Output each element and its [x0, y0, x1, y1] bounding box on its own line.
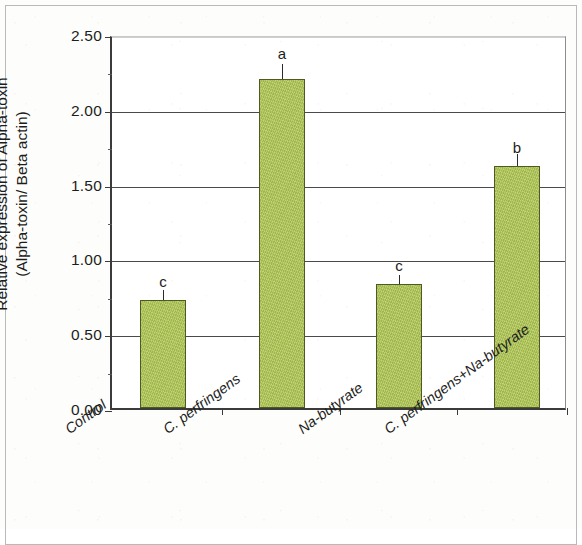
y-axis-tick-minor-0.25 [108, 374, 112, 375]
x-axis-tick-4 [567, 408, 568, 415]
bar-c-perfringens[interactable] [259, 79, 305, 408]
y-axis-title: Relative expression of Alpha-toxin (Alph… [0, 14, 32, 374]
y-axis-tick-0.50 [105, 336, 112, 337]
error-bar-control [163, 290, 164, 301]
y-axis-tick-minor-2.25 [108, 74, 112, 75]
y-axis-tick-2.50 [105, 37, 112, 38]
bar-control[interactable] [140, 300, 186, 408]
y-axis-title-line-2: (Alpha-toxin/ Beta actin) [12, 14, 32, 374]
significance-letter-c-perfringens: a [272, 45, 292, 62]
error-bar-na-butyrate [399, 275, 400, 284]
y-axis-tick-minor-1.25 [108, 224, 112, 225]
y-axis-tick-minor-0.75 [108, 299, 112, 300]
y-tick-label-2.00: 2.00 [50, 102, 102, 120]
error-bar-c-perfringens [282, 64, 283, 79]
significance-letter-na-butyrate: c [389, 257, 409, 274]
y-tick-label-0.50: 0.50 [50, 326, 102, 344]
x-axis-tick-3 [457, 408, 458, 415]
significance-letter-c-perfringens-na-butyrate: b [507, 139, 527, 156]
y-axis-tick-1.50 [105, 187, 112, 188]
y-tick-label-2.50: 2.50 [50, 27, 102, 45]
x-axis-tick-1 [222, 408, 223, 415]
y-tick-label-1.00: 1.00 [50, 251, 102, 269]
y-tick-label-1.50: 1.50 [50, 177, 102, 195]
gridline-2.00 [112, 112, 565, 113]
gridline-2.50 [112, 37, 565, 38]
y-axis-title-line-1: Relative expression of Alpha-toxin [0, 14, 12, 374]
y-axis-tick-1.00 [105, 261, 112, 262]
y-axis-tick-2.00 [105, 112, 112, 113]
bar-na-butyrate[interactable] [376, 284, 422, 408]
significance-letter-control: c [153, 273, 173, 290]
bar-c-perfringens-na-butyrate[interactable] [494, 166, 540, 408]
y-axis-tick-minor-1.75 [108, 149, 112, 150]
